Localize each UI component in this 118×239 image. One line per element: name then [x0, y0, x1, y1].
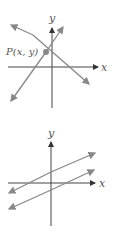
x-axis-label: x	[101, 61, 108, 74]
lower-parallel-line	[51, 170, 94, 190]
x-axis-label: x	[99, 177, 106, 190]
decreasing-line-tail	[11, 25, 33, 35]
y-axis-label: y	[48, 12, 56, 25]
intersection-point	[43, 49, 49, 55]
lower-parallel-line-tail	[9, 190, 51, 209]
increasing-line-tail	[11, 52, 46, 101]
intersecting-lines-graph: y x P(x, y)	[0, 0, 118, 120]
y-axis-label: y	[47, 127, 55, 140]
increasing-line	[46, 27, 63, 52]
point-label: P(x, y)	[5, 46, 38, 57]
upper-parallel-line	[51, 153, 95, 172]
parallel-lines-graph: y x	[0, 120, 118, 239]
